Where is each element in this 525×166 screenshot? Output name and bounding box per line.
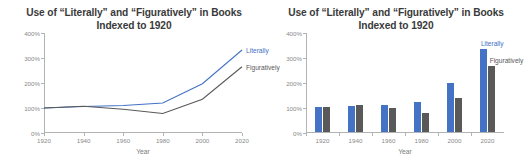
line-series-literally (44, 50, 242, 108)
line-chart-x-tick-mark (163, 133, 164, 136)
bar-chart-x-tick-mark (438, 133, 439, 136)
line-chart-x-tick-label: 2020 (235, 137, 249, 144)
bar-chart-y-tick-label: 300% (286, 55, 302, 62)
bar-chart-x-tick-mark (339, 133, 340, 136)
bar-chart-y-tick-label: 100% (286, 105, 302, 112)
line-chart-x-axis-title: Year (44, 148, 242, 155)
bar-figuratively-1940 (356, 105, 364, 132)
bar-chart-x-tick-label: 1920 (316, 137, 330, 144)
bar-literally-1960 (381, 105, 389, 133)
line-chart-x-tick-mark (202, 133, 203, 136)
bar-chart-x-tick-mark (306, 133, 307, 136)
bar-chart-x-tick-label: 2000 (448, 137, 462, 144)
bar-chart-x-axis-title: Year (306, 148, 504, 155)
line-chart-y-tick-mark (41, 58, 44, 59)
line-chart-title-line2: Indexed to 1920 (14, 19, 254, 32)
bar-chart-x-tick-mark (471, 133, 472, 136)
bar-chart-title-line2: Indexed to 1920 (276, 19, 516, 32)
line-chart-y-tick-label: 400% (24, 30, 40, 37)
line-chart-x-tick-mark (123, 133, 124, 136)
line-chart-y-tick-label: 100% (24, 105, 40, 112)
line-chart-x-tick-mark (242, 133, 243, 136)
line-chart-x-tick-label: 1960 (116, 137, 130, 144)
line-chart-y-tick-mark (41, 33, 44, 34)
line-chart-y-tick-mark (41, 108, 44, 109)
bar-figuratively-1920 (323, 107, 331, 132)
line-chart-series-group (44, 33, 242, 133)
bar-chart-y-tick-label: 0% (293, 130, 302, 137)
bar-chart-legend-figuratively: Figuratively (490, 56, 524, 63)
bar-chart-y-tick-label: 400% (286, 30, 302, 37)
bar-chart-x-tick-label: 1960 (382, 137, 396, 144)
bar-figuratively-1980 (422, 113, 430, 133)
bar-chart-panel: Use of “Literally” and “Figuratively” in… (262, 0, 524, 166)
bar-chart-legend-literally: Literally (481, 40, 504, 47)
line-chart-title: Use of “Literally” and “Figuratively” in… (14, 6, 254, 32)
line-chart-title-line1: Use of “Literally” and “Figuratively” in… (26, 7, 242, 18)
bar-figuratively-1960 (389, 108, 397, 132)
bar-chart-y-tick-mark (303, 108, 306, 109)
bar-chart-y-tick-mark (303, 33, 306, 34)
bar-figuratively-2000 (455, 98, 463, 132)
bar-chart-x-tick-mark (405, 133, 406, 136)
line-series-figuratively (44, 67, 242, 114)
line-chart-x-tick-label: 1980 (156, 137, 170, 144)
bar-chart-y-tick-label: 200% (286, 80, 302, 87)
line-chart-panel: Use of “Literally” and “Figuratively” in… (0, 0, 262, 166)
line-chart-y-tick-label: 200% (24, 80, 40, 87)
bar-chart-x-tick-label: 1980 (415, 137, 429, 144)
bar-literally-2020 (480, 49, 488, 132)
two-chart-figure: Use of “Literally” and “Figuratively” in… (0, 0, 525, 166)
bar-chart-x-tick-label: 1940 (349, 137, 363, 144)
line-chart-y-tick-mark (41, 83, 44, 84)
bar-chart-x-tick-mark (372, 133, 373, 136)
bar-literally-1980 (414, 102, 422, 132)
line-chart-y-tick-label: 0% (31, 130, 40, 137)
bar-chart-title-line1: Use of “Literally” and “Figuratively” in… (288, 7, 504, 18)
bar-chart-y-tick-mark (303, 83, 306, 84)
line-chart-plot-area: Year 0%100%200%300%400%19201940196019802… (44, 33, 242, 133)
line-chart-x-tick-label: 2000 (196, 137, 210, 144)
bar-literally-1920 (315, 107, 323, 132)
bar-chart-y-axis (306, 33, 307, 133)
line-chart-x-tick-label: 1920 (37, 137, 51, 144)
line-chart-x-tick-mark (44, 133, 45, 136)
bar-chart-plot-area: Year 0%100%200%300%400%19201940196019802… (306, 33, 504, 133)
bar-literally-1940 (348, 106, 356, 133)
bar-chart-title: Use of “Literally” and “Figuratively” in… (276, 6, 516, 32)
bar-figuratively-2020 (488, 66, 496, 132)
line-chart-x-tick-label: 1940 (77, 137, 91, 144)
line-chart-x-tick-mark (84, 133, 85, 136)
line-chart-y-tick-label: 300% (24, 55, 40, 62)
bar-literally-2000 (447, 83, 455, 132)
bar-chart-y-tick-mark (303, 58, 306, 59)
bar-chart-x-tick-label: 2020 (481, 137, 495, 144)
